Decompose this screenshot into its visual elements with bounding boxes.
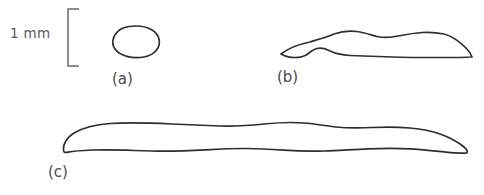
specimen-outline-b-group: (b) [277, 31, 472, 86]
specimen-outline-b [281, 31, 472, 57]
scale-bar-label: 1 mm [10, 25, 50, 41]
specimen-outline-c-group: (c) [48, 123, 467, 181]
specimen-outline-a [113, 26, 160, 58]
scale-bar-group: 1 mm [10, 9, 79, 66]
specimen-outline-figure: 1 mm (a) (b) (c) [0, 0, 484, 195]
figure-container: 1 mm (a) (b) (c) [0, 0, 484, 195]
panel-label-c: (c) [48, 163, 68, 181]
specimen-outline-a-group: (a) [112, 26, 159, 88]
panel-label-b: (b) [277, 68, 298, 86]
scale-bar-bracket-icon [68, 9, 79, 66]
panel-label-a: (a) [112, 70, 133, 88]
specimen-outline-c [63, 123, 467, 154]
